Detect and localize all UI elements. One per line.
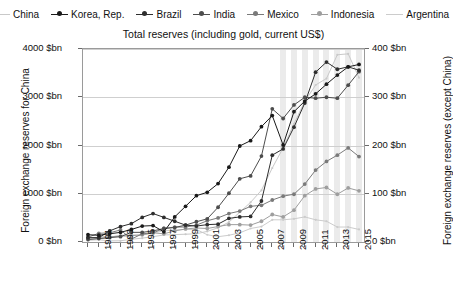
series-point [314,96,318,100]
series-point [216,222,220,226]
series-point [292,208,296,212]
x-axis-tick-label: 2005 [254,229,265,250]
series-point [195,220,199,224]
series-line-brazil [88,62,359,238]
series-point [216,182,220,186]
series-point [314,168,318,172]
series-point [206,230,208,232]
legend-item-china[interactable]: China [0,9,39,20]
legend-marker-icon [311,9,328,20]
series-point [358,77,360,79]
series-point [238,209,242,213]
series-point [357,63,361,67]
series-line-india [88,72,359,240]
series-point [249,204,253,208]
series-point [206,234,208,236]
series-point [260,125,264,129]
series-point [97,233,101,237]
series-point [238,177,242,181]
plot-area [82,48,365,243]
legend-item-brazil[interactable]: Brazil [136,9,181,20]
series-point [227,191,231,195]
series-point [151,224,155,228]
series-point [303,99,307,103]
series-point [271,167,273,169]
series-point [162,230,166,234]
legend-label: Argentina [406,9,449,20]
series-point [238,223,242,227]
y-axis-right-title: Foreign exchange reserves (except China) [442,56,453,246]
series-point [315,219,317,221]
series-point [227,216,231,220]
legend-marker-icon [247,9,264,20]
legend-label: Korea, Rep. [71,9,124,20]
x-axis-tick-label: 2013 [340,229,351,250]
series-point [260,189,262,191]
series-point [205,217,209,221]
series-point [260,225,262,227]
y-axis-left-tick-label: 1000 $bn [2,188,62,198]
series-point [346,83,350,87]
series-point [184,223,188,227]
x-axis-tickmark [206,243,207,247]
y-axis-left-title: Foreign exchange reserves for China [20,56,31,246]
series-point [335,153,339,157]
series-point [249,215,253,219]
series-point [346,65,350,69]
y-axis-left-tickmark [78,96,82,97]
x-axis-tick-label: 1991 [102,229,113,250]
series-point [281,117,285,121]
legend-item-korea-rep[interactable]: Korea, Rep. [51,9,124,20]
series-point [162,215,166,219]
legend-item-india[interactable]: India [193,9,235,20]
y-axis-left-tick-label: 3000 $bn [2,91,62,101]
series-point [184,233,186,235]
x-axis-tickmark [293,243,294,247]
legend-item-mexico[interactable]: Mexico [247,9,299,20]
y-axis-right-tickmark [365,193,369,194]
x-axis-tick-label: 2015 [362,229,373,250]
y-axis-right-tick-label: 0 $bn [372,236,432,246]
series-point [347,226,349,228]
x-axis-tickmark [163,243,164,247]
series-point [270,213,274,217]
chart-title: Total reserves (including gold, current … [82,28,365,40]
series-point [238,215,242,219]
x-axis-tick-label: 2009 [297,229,308,250]
x-axis-tick-label: 2003 [232,229,243,250]
series-point [292,125,296,129]
series-point [270,198,274,202]
y-axis-left-tickmark [78,48,82,49]
series-point [325,60,329,64]
y-axis-right-tick-label: 300 $bn [372,91,432,101]
series-point [151,212,155,216]
plot-inner [83,49,364,242]
series-point [347,53,349,55]
series-point [260,203,264,207]
series-point [325,186,329,190]
legend-marker-icon [51,9,68,20]
y-axis-right-tickmark [365,48,369,49]
legend-item-argentina[interactable]: Argentina [386,9,449,20]
legend-marker-icon [386,9,403,20]
series-point [314,92,318,96]
x-axis-tick-label: 2007 [275,229,286,250]
series-point [238,144,242,148]
series-point [119,240,121,242]
y-axis-left-tick-label: 2000 $bn [2,140,62,150]
series-point [140,215,144,219]
series-point [250,227,252,229]
legend-marker-icon [193,9,210,20]
series-point [227,212,231,216]
series-point [335,96,339,100]
series-point [281,143,285,147]
legend-marker-icon [0,9,10,20]
series-point [195,194,199,198]
legend-item-indonesia[interactable]: Indonesia [311,9,374,20]
x-axis-tickmark [250,243,251,247]
x-axis-tick-label: 2011 [319,230,330,250]
series-point [227,223,231,227]
series-point [335,192,339,196]
y-axis-left-tickmark [78,241,82,242]
